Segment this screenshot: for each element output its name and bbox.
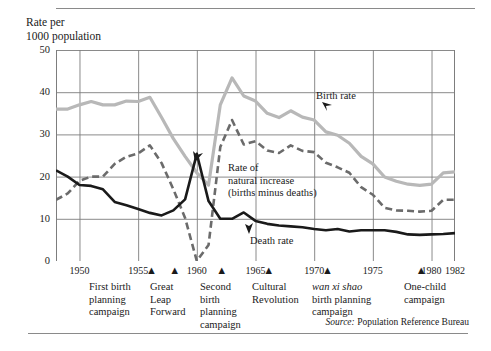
bottom-divider-rule (28, 333, 468, 334)
event-label-italic: wan xi shao (312, 281, 362, 292)
event-label-1971: wan xi shao birth planning campaign (312, 281, 404, 319)
x-tick-1982: 1982 (438, 266, 472, 276)
y-tick-30: 30 (24, 129, 50, 140)
event-marker-1956: ▲ (146, 265, 157, 276)
event-marker-1962: ▲ (216, 265, 227, 276)
figure: Rate per 1000 population 50403020100 195… (0, 0, 491, 351)
event-marker-1979: ▲ (416, 265, 427, 276)
top-divider-rule (56, 8, 475, 9)
y-axis-title: Rate per 1000 population (26, 16, 101, 43)
y-tick-50: 50 (24, 45, 50, 56)
source-text: Population Reference Bureau (355, 317, 469, 327)
birth-rate-label-arrow-icon (321, 101, 335, 115)
death-rate-label-arrow-icon (242, 222, 256, 236)
death-rate-label: Death rate (250, 235, 293, 248)
y-tick-20: 20 (24, 172, 50, 183)
source-credit: Source: Population Reference Bureau (326, 317, 469, 327)
event-marker-1958: ▲ (169, 265, 180, 276)
x-tick-1950: 1950 (62, 266, 96, 276)
natural-increase-label: Rate of natural increase (births minus d… (228, 162, 317, 200)
y-tick-40: 40 (24, 87, 50, 98)
y-tick-0: 0 (24, 256, 50, 267)
event-marker-1971: ▲ (322, 265, 333, 276)
source-prefix: Source: (326, 317, 355, 327)
natural-increase-label-arrow-icon (192, 150, 206, 164)
event-label-1962: Second birth planning campaign (200, 281, 255, 331)
event-label-1958: Great Leap Forward (150, 281, 198, 319)
x-tick-1975: 1975 (356, 266, 390, 276)
event-label-1979: One-child campaign (404, 281, 476, 306)
event-label-1956: First birth planning campaign (89, 281, 149, 319)
event-marker-1966: ▲ (263, 265, 274, 276)
x-tick-1960: 1960 (180, 266, 214, 276)
y-tick-10: 10 (24, 214, 50, 225)
